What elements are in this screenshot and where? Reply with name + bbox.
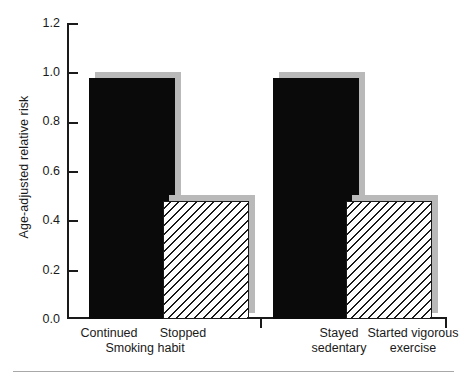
y-axis-tick [69,23,78,25]
y-axis-tick [69,72,78,74]
plot-area [67,23,447,319]
x-tick-label-started-vigorous-exercise: Started vigorous exercise [349,326,467,356]
bar-body [163,201,249,319]
y-axis-tick [69,122,78,124]
footer-rule [13,371,454,372]
x-axis-tick-group-separator [260,319,262,328]
y-tick-label: 0.0 [20,312,60,326]
y-axis-tick [69,220,78,222]
chart-figure: Age-adjusted relative risk 1.2 1.0 0.8 0… [0,0,467,382]
x-axis-group-label: Smoking habit [80,341,210,355]
x-tick-label-line2: exercise [349,341,467,356]
y-axis-tick [69,317,78,319]
x-tick-label-line1: Started vigorous [349,326,467,341]
y-axis-tick [69,270,78,272]
y-tick-label: 0.4 [20,213,60,227]
x-tick-label-stopped: Stopped [118,326,248,341]
y-tick-label: 1.0 [20,65,60,79]
bar-started-vigorous-exercise[interactable] [346,195,438,319]
y-tick-label: 0.2 [20,263,60,277]
y-axis-tick [69,171,78,173]
bar-body [346,201,432,319]
bar-stopped[interactable] [163,195,255,319]
y-tick-label: 0.8 [20,114,60,128]
y-tick-label: 0.6 [20,164,60,178]
x-tick-label-line1: Stopped [160,326,207,340]
y-tick-label: 1.2 [20,16,60,30]
